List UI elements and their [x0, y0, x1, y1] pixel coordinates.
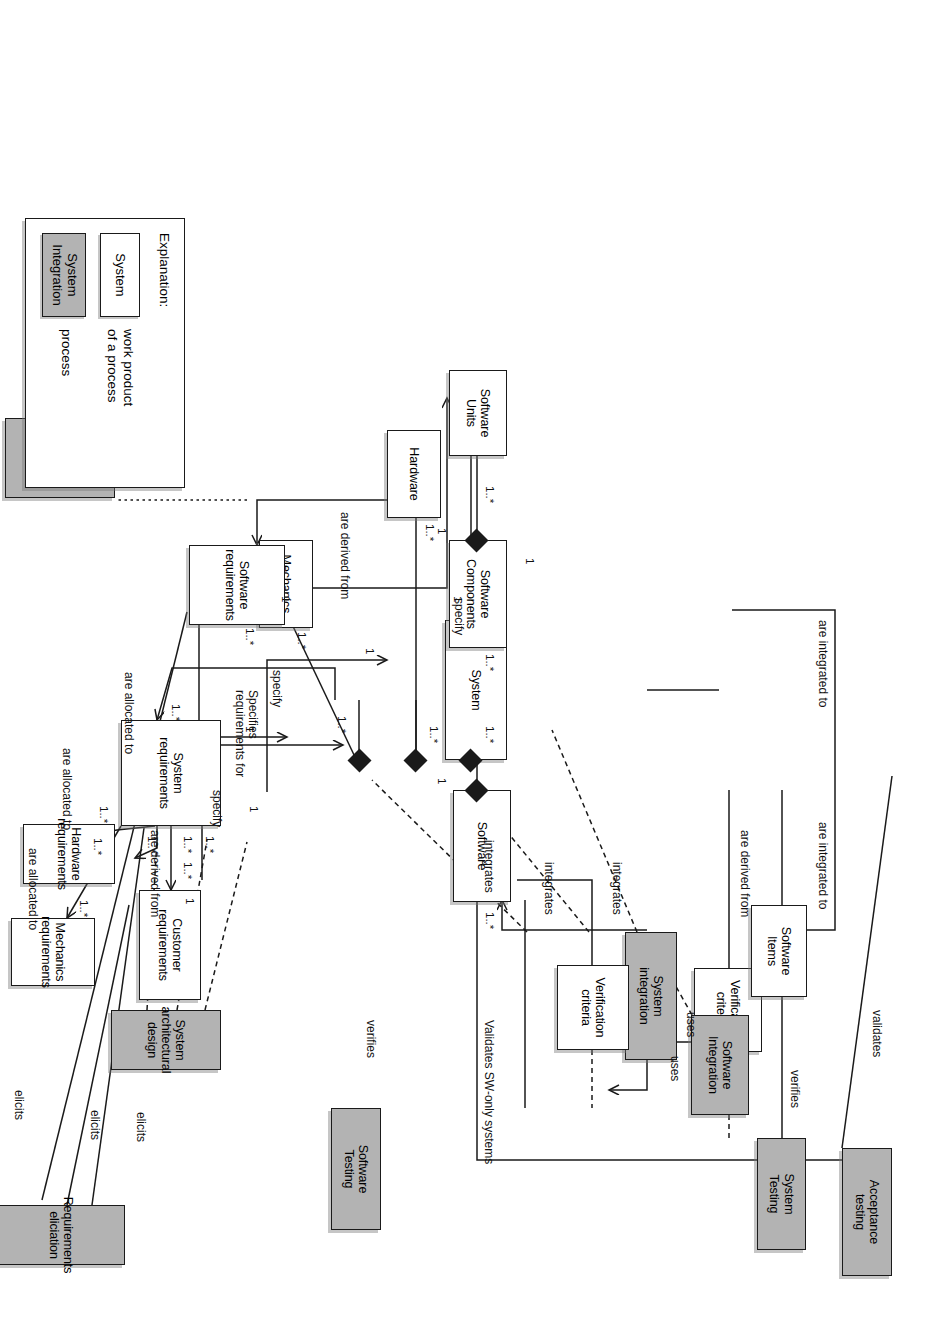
node-software-units[interactable]: Software Units — [449, 370, 507, 456]
node-hardware[interactable]: Hardware — [387, 430, 441, 518]
multiplicity-hardware-end: 1..* — [424, 524, 436, 541]
multiplicity-sysreq-sw: 1..* — [204, 836, 216, 853]
multiplicity-sysreq-hw: 1..* — [146, 836, 158, 853]
multiplicity-hwreq-specify: 1 — [248, 806, 260, 812]
node-system-testing[interactable]: System Testing — [757, 1138, 806, 1250]
node-system-integration[interactable]: System integration — [625, 932, 677, 1060]
edge-label-specifies-requirements-for: Specifies requirements for — [232, 690, 259, 777]
node-verification-criteria-software[interactable]: Verification criteria — [557, 965, 629, 1050]
node-label: Software Testing — [342, 1145, 370, 1194]
node-label: Customer requirements — [156, 909, 184, 981]
edge-label-are-integrated-to-items: are integrated to — [816, 822, 829, 909]
multiplicity-hwreq-end: 1..* — [98, 806, 110, 823]
edge-label-elicits-software: elicits — [12, 1090, 25, 1120]
edge-label-elicits-system: elicits — [134, 1112, 147, 1142]
multiplicity-swunits-many: 1..* — [484, 486, 496, 503]
node-label: System Testing — [767, 1173, 795, 1214]
edge-label-validates-sw-only: Validates SW-only systems — [482, 1020, 495, 1164]
edge-label-specify-software: specify — [452, 598, 465, 635]
legend-text-work-product: work product of a process — [105, 329, 136, 406]
node-software-integration[interactable]: Software Integration — [691, 1015, 749, 1115]
multiplicity-sysreq-mech: 1..* — [92, 838, 104, 855]
rotated-artwork: Acceptance testing System Testing Verifi… — [0, 0, 947, 1318]
edge-label-are-derived-from-sysreq: are derived from — [738, 830, 751, 917]
node-label: Software requirements — [223, 549, 251, 621]
multiplicity-swcomp-one: 1 — [436, 528, 448, 534]
multiplicity-mechreq-specify: 1 — [184, 898, 196, 904]
node-system-architectural-design[interactable]: System architectural design — [111, 1010, 221, 1070]
edge-label-validates: validates — [870, 1010, 883, 1057]
node-label: System integration — [637, 967, 665, 1024]
multiplicity-software-end: 1..* — [484, 912, 496, 929]
multiplicity-software-one: 1 — [436, 778, 448, 784]
legend: Explanation: System work product of a pr… — [25, 218, 185, 488]
legend-sample-work-product: System — [100, 233, 140, 317]
node-mechanics-requirements[interactable]: Mechanics requirements — [11, 918, 95, 986]
multiplicity-swunits-one: 1 — [524, 558, 536, 564]
node-label: Software Components — [464, 559, 492, 629]
multiplicity-sysreq-to-system: 1..* — [170, 704, 182, 721]
multiplicity-swreq-specify: 1 — [280, 596, 292, 602]
node-label: Software Integration — [706, 1036, 734, 1094]
node-label: Software Items — [765, 927, 793, 976]
multiplicity-custreq-left: 1..* — [182, 862, 194, 879]
multiplicity-swreq-end: 1..* — [244, 628, 256, 645]
node-acceptance-testing[interactable]: Acceptance testing — [842, 1148, 892, 1276]
node-label: Acceptance testing — [853, 1180, 881, 1244]
node-label: System architectural design — [145, 1007, 187, 1074]
edge-label-uses-software: uses — [668, 1056, 681, 1081]
multiplicity-mechreq-end: 1..* — [78, 900, 90, 917]
edge-label-are-derived-from-swreq: are derived from — [338, 512, 351, 599]
edge-label-uses-system: uses — [684, 1012, 697, 1037]
diagram-canvas: Acceptance testing System Testing Verifi… — [0, 0, 947, 1318]
node-software-requirements[interactable]: Software requirements — [189, 545, 285, 625]
legend-text-process: process — [58, 329, 74, 376]
multiplicity-mechanics-end: 1..* — [296, 632, 308, 649]
edge-label-allocated-mechanics: are allocated to — [26, 848, 39, 930]
multiplicity-mechanics-specify: 1 — [244, 726, 256, 732]
node-label: System — [469, 669, 483, 710]
multiplicity-swcomp-many: 1..* — [484, 654, 496, 671]
edge-label-integrates-2: integrates — [542, 862, 555, 915]
edge-label-are-integrated-to-units: are integrated to — [816, 620, 829, 707]
legend-sample-label: System — [113, 253, 128, 296]
edge-label-integrates-3: integrates — [482, 840, 495, 893]
legend-title: Explanation: — [157, 233, 172, 307]
edge-label-integrates-1: integrates — [610, 862, 623, 915]
legend-sample-label: System Integration — [49, 244, 78, 305]
edge-label-allocated-software: are allocated to — [122, 672, 135, 754]
legend-sample-process: System Integration — [42, 233, 86, 317]
multiplicity-sys-hardware: 1..* — [428, 726, 440, 743]
node-label: Requirements eliciation — [47, 1197, 75, 1274]
edge-label-elicits-customer: elicits — [88, 1110, 101, 1140]
edge-label-specify-hardware: specify — [270, 670, 283, 707]
edge-label-specify-mechanics: specify — [210, 790, 223, 827]
node-system-requirements[interactable]: System requirements — [121, 720, 221, 826]
node-label: System requirements — [157, 737, 185, 809]
node-label: Mechanics requirements — [39, 916, 67, 988]
node-label: Hardware — [407, 447, 421, 500]
edge-label-verifies-system: verifies — [788, 1070, 801, 1108]
multiplicity-custreq-right: 1..* — [182, 836, 194, 853]
node-label: Verification criteria — [579, 978, 607, 1038]
node-software-testing[interactable]: Software Testing — [331, 1108, 381, 1230]
edge-label-allocated-hardware: are allocated to — [60, 748, 73, 830]
node-software-items[interactable]: Software Items — [751, 905, 807, 997]
node-requirements-elicitation[interactable]: Requirements eliciation — [0, 1205, 125, 1265]
edge-label-verifies-software: verifies — [364, 1020, 377, 1058]
node-label: Software Units — [464, 389, 492, 438]
multiplicity-sys-mechanics: 1..* — [336, 716, 348, 733]
multiplicity-hardware-specify: 1 — [364, 648, 376, 654]
multiplicity-software-specify: 1 — [452, 596, 464, 602]
multiplicity-sys-software: 1..* — [484, 726, 496, 743]
